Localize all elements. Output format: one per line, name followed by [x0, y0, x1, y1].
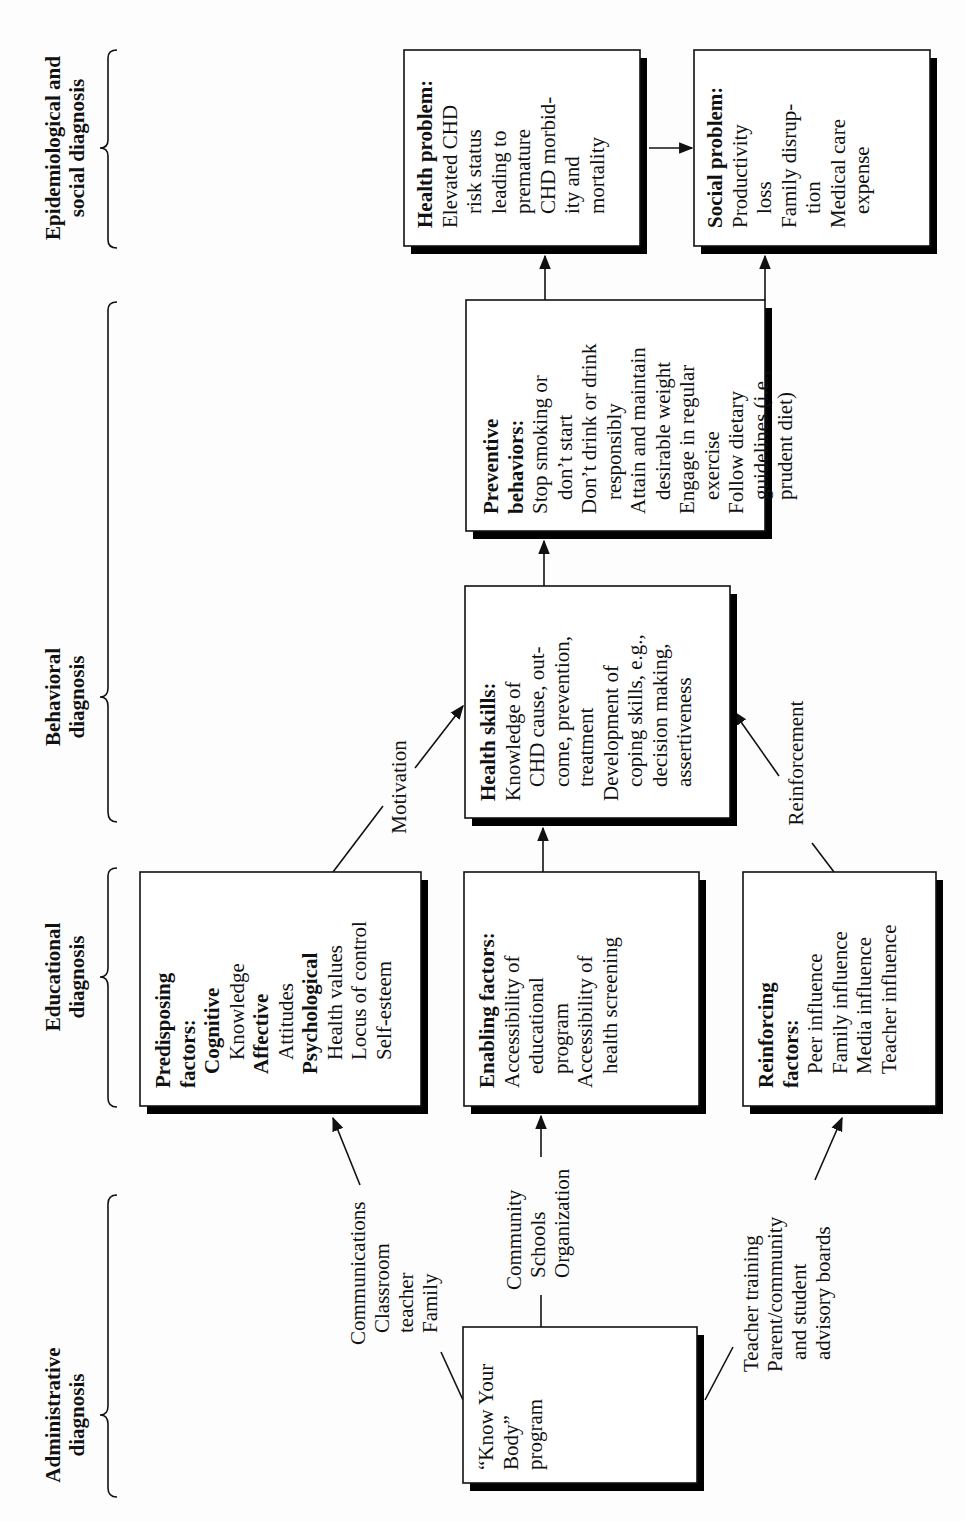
box-line: Family disrup- — [777, 104, 801, 228]
teacher-training-line: Teacher training — [739, 1235, 763, 1372]
box-title: Preventive — [479, 419, 503, 514]
box-line: mortality — [585, 137, 609, 214]
bracket-epidemiological — [100, 50, 117, 248]
bracket-educational — [100, 868, 117, 1107]
box-line: Attain and maintain — [626, 347, 650, 514]
box-title: factors: — [176, 1019, 200, 1088]
stage-label-line: Epidemiological and — [41, 56, 65, 240]
community-line: Schools — [526, 1211, 550, 1278]
box-subheading: Affective — [249, 994, 273, 1074]
box-line: guidelines (i.e., — [749, 371, 773, 500]
box-title: Health problem: — [413, 80, 437, 228]
box-line: Medical care — [826, 119, 850, 228]
box-line: Self-esteem — [372, 961, 396, 1060]
bracket-administrative — [100, 1195, 117, 1497]
community-line: Community — [502, 1189, 526, 1290]
diagram-svg: Epidemiological and social diagnosis Beh… — [0, 0, 965, 1521]
stage-label-administrative: Administrative diagnosis — [41, 1347, 89, 1482]
stage-label-educational: Educational diagnosis — [41, 923, 89, 1032]
stage-label-line: diagnosis — [65, 1374, 89, 1457]
box-line: don’t start — [553, 414, 577, 500]
reinforcement-label: Reinforcement — [784, 700, 808, 825]
box-line: exercise — [700, 431, 724, 500]
motivation-label: Motivation — [387, 740, 411, 834]
arrow-teacher-training-to-reinforcing — [815, 1118, 842, 1180]
label-communications: Communications Classroom teacher Family — [346, 1202, 442, 1346]
box-line: Accessibility of — [573, 956, 597, 1088]
box-line: Health values — [323, 945, 347, 1060]
teacher-training-line: and student — [787, 1264, 811, 1360]
box-line: Body” — [499, 1415, 523, 1470]
communications-line: Family — [418, 1273, 442, 1333]
box-line: prudent diet) — [773, 392, 797, 500]
box-line: “Know Your — [474, 1364, 498, 1470]
line-kyb-to-communications — [441, 1352, 463, 1400]
teacher-training-line: Parent/community — [763, 1216, 787, 1372]
box-line: responsibly — [602, 403, 626, 500]
box-line: health screening — [598, 936, 622, 1074]
box-line: treatment — [574, 708, 598, 787]
label-community: Community Schools Organization — [502, 1168, 574, 1290]
stage-label-line: social diagnosis — [65, 79, 89, 217]
box-title: Health skills: — [476, 683, 500, 801]
arrow-communications-to-predisposing — [333, 1118, 360, 1185]
box-line: Teacher influence — [877, 924, 901, 1074]
arrow-reinforcement-upper — [734, 712, 779, 776]
stage-label-line: Administrative — [41, 1347, 65, 1482]
box-line: coping skills, e.g., — [623, 634, 647, 787]
box-line: decision making, — [648, 644, 672, 787]
box-title: factors: — [779, 1019, 803, 1088]
box-line: CHD cause, out- — [525, 646, 549, 787]
box-title: behaviors: — [504, 420, 528, 515]
community-line: Organization — [550, 1168, 574, 1278]
stage-label-line: diagnosis — [65, 936, 89, 1019]
stage-brackets — [100, 50, 117, 1497]
stage-label-behavioral: Behavioral diagnosis — [41, 648, 89, 746]
box-line: Attitudes — [274, 983, 298, 1060]
communications-line: Communications — [346, 1202, 370, 1346]
box-title: Predisposing — [151, 972, 175, 1088]
box-line: Knowledge — [225, 963, 249, 1060]
label-teacher-training: Teacher training Parent/community and st… — [739, 1216, 835, 1372]
box-line: program — [523, 1399, 547, 1470]
teacher-training-line: advisory boards — [811, 1226, 835, 1360]
box-line: expense — [850, 146, 874, 214]
box-line: Productivity — [728, 124, 752, 228]
box-line: Elevated CHD — [438, 105, 462, 228]
box-line: program — [549, 1003, 573, 1074]
label-reinforcement: Reinforcement — [784, 700, 808, 825]
box-line: risk status — [462, 129, 486, 214]
box-line: ity and — [560, 156, 584, 214]
stage-label-line: Behavioral — [41, 648, 65, 746]
precede-proceed-diagram: Epidemiological and social diagnosis Beh… — [0, 0, 965, 1521]
box-line: Peer influence — [803, 953, 827, 1074]
arrow-motivation-lower — [333, 806, 383, 872]
box-line: Locus of control — [347, 921, 371, 1060]
box-line: leading to — [487, 131, 511, 214]
box-line: Stop smoking or — [528, 375, 552, 514]
label-motivation: Motivation — [387, 740, 411, 834]
box-line: loss — [752, 181, 776, 214]
box-subheading: Cognitive — [200, 988, 224, 1074]
box-subheading: Psychological — [298, 953, 322, 1074]
box-line: educational — [524, 977, 548, 1074]
box-line: Accessibility of — [500, 956, 524, 1088]
box-line: Don’t drink or drink — [577, 343, 601, 514]
box-line: premature — [511, 129, 535, 214]
box-line: CHD morbid- — [536, 97, 560, 214]
box-line: Engage in regular — [675, 365, 699, 514]
box-line: Follow dietary — [724, 390, 748, 514]
line-kyb-to-teacher-training — [705, 1347, 733, 1400]
communications-line: Classroom — [370, 1243, 394, 1333]
box-title: Reinforcing — [754, 982, 778, 1088]
box-line: assertiveness — [672, 677, 696, 787]
box-line: come, prevention, — [550, 636, 574, 787]
box-line: Development of — [599, 665, 623, 801]
box-line: Knowledge of — [501, 681, 525, 801]
stage-label-line: diagnosis — [65, 656, 89, 739]
arrow-motivation-upper — [415, 706, 463, 768]
stage-label-epidemiological: Epidemiological and social diagnosis — [41, 56, 89, 240]
arrow-reinforcement-lower — [812, 843, 834, 872]
box-line: tion — [801, 181, 825, 214]
box-line: Family influence — [828, 931, 852, 1074]
